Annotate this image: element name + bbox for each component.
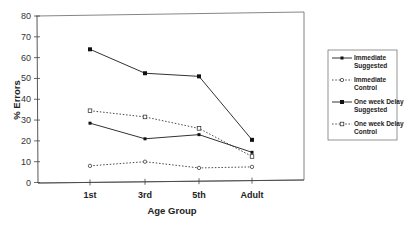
series-line [90, 123, 252, 152]
legend-label: One week Delay [354, 98, 404, 106]
series-one-week-delay-control [88, 109, 254, 158]
point-marker-icon [88, 47, 92, 51]
point-marker-icon [143, 71, 147, 75]
point-marker-icon [197, 127, 201, 131]
point-marker-icon [197, 74, 201, 78]
x-tick-label: 3rd [138, 190, 152, 200]
x-tick-label: 5th [192, 190, 206, 200]
point-marker-icon [143, 160, 146, 163]
legend-label: Control [354, 128, 377, 135]
series-one-week-delay-suggested [88, 47, 254, 142]
point-marker-icon [340, 122, 344, 126]
legend-label: Suggested [354, 62, 387, 70]
y-tick-label: 80 [21, 11, 31, 21]
legend-label: Suggested [354, 106, 387, 114]
y-tick-label: 60 [21, 53, 31, 63]
point-marker-icon [250, 165, 253, 168]
point-marker-icon [341, 57, 344, 60]
legend: ImmediateSuggestedImmediateControlOne we… [328, 50, 404, 140]
point-marker-icon [250, 138, 254, 142]
point-marker-icon [198, 133, 201, 136]
point-marker-icon [340, 100, 344, 104]
point-marker-icon [89, 122, 92, 125]
series-line [90, 49, 252, 140]
legend-label: Control [354, 84, 377, 91]
y-tick-label: 30 [21, 115, 31, 125]
legend-label: One week Delay [354, 120, 404, 128]
y-tick-label: 0 [26, 178, 31, 188]
line-chart: 01020304050607080 1st3rd5thAdult % Error… [0, 0, 409, 228]
series-layer [88, 47, 254, 169]
y-axis-title: % Errors [11, 80, 22, 120]
series-line [90, 162, 252, 168]
y-tick-label: 50 [21, 73, 31, 83]
x-tick-label: 1st [83, 190, 96, 200]
point-marker-icon [197, 166, 200, 169]
point-marker-icon [143, 115, 147, 119]
series-immediate-suggested [89, 122, 254, 154]
point-marker-icon [250, 155, 254, 159]
y-tick-label: 40 [21, 94, 31, 104]
point-marker-icon [88, 109, 92, 113]
point-marker-icon [88, 164, 91, 167]
plot-frame [36, 12, 304, 183]
x-axis-title: Age Group [147, 205, 196, 216]
x-tick-label: Adult [241, 190, 264, 200]
point-marker-icon [144, 137, 147, 140]
y-tick-label: 70 [21, 32, 31, 42]
x-axis [38, 180, 304, 183]
series-immediate-control [88, 160, 253, 170]
point-marker-icon [340, 78, 343, 81]
legend-label: Immediate [354, 54, 387, 61]
point-marker-icon [251, 151, 254, 154]
series-line [90, 111, 252, 157]
y-tick-label: 20 [21, 136, 31, 146]
legend-label: Immediate [354, 76, 387, 83]
y-tick-label: 10 [21, 157, 31, 167]
